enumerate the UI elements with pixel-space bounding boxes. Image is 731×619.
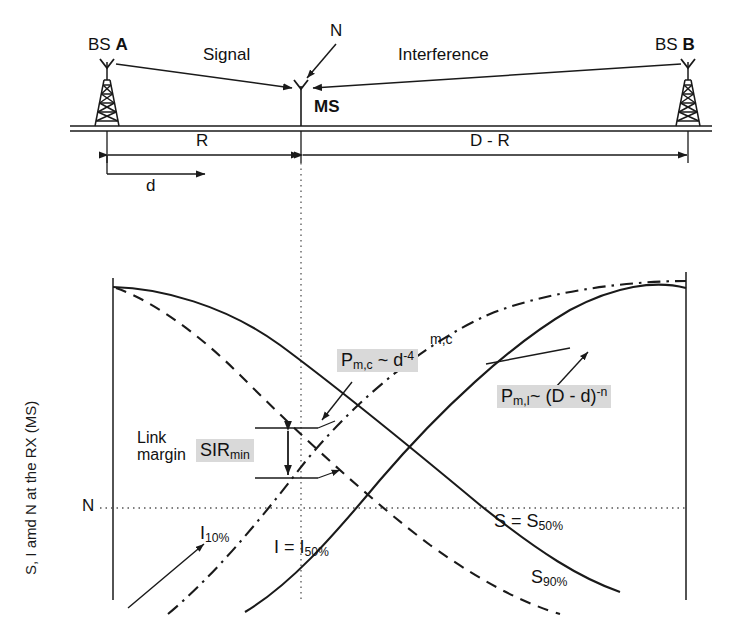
- sir-min-label: SIRmin: [196, 441, 254, 462]
- path-loss-interference-label: Pm,I~ (D - d)-n: [497, 386, 611, 408]
- curve-s-50: [113, 287, 620, 592]
- leader-i10: [128, 544, 204, 608]
- chart-y-axis-label: S, I amd N at the RX (MS): [22, 401, 39, 575]
- ground-line: [70, 126, 712, 131]
- bs-a-label: BS A: [88, 36, 128, 54]
- ms-label: MS: [314, 98, 340, 116]
- dimension-r-label: R: [196, 132, 208, 150]
- interference-label: Interference: [398, 46, 489, 64]
- sir-lower-tail: [318, 470, 340, 478]
- path-loss-signal-label: Pm,c ~ d-4: [337, 350, 418, 372]
- bs-b-tower-icon: [676, 59, 700, 126]
- curve-i-50: [245, 285, 686, 612]
- noise-arrow: [307, 44, 336, 78]
- i10-label: I10%: [200, 524, 230, 545]
- ms-antenna-icon: [294, 80, 308, 126]
- propagation-diagram: [0, 0, 731, 619]
- leader-pmi: [555, 352, 588, 388]
- bs-b-label: BS B: [655, 36, 695, 54]
- sir-min-bracket: [255, 428, 318, 478]
- link-margin-label: Link margin: [137, 430, 186, 464]
- leader-pmi-2: [486, 348, 570, 364]
- s90-label: S90%: [531, 568, 568, 589]
- s50-label: S = S50%: [494, 512, 563, 533]
- interference-path: [313, 64, 681, 88]
- noise-axis-label: N: [82, 497, 94, 515]
- bs-a-tower-icon: [95, 59, 119, 126]
- signal-path: [116, 64, 292, 88]
- dimension-d-arrow: [107, 155, 205, 174]
- dimension-d-minus-r-label: D - R: [470, 132, 510, 150]
- mc-label: m,c: [430, 332, 453, 347]
- sir-upper-tail: [318, 421, 335, 428]
- i50-label: I = I50%: [274, 538, 329, 559]
- signal-label: Signal: [203, 46, 250, 64]
- noise-label-top: N: [330, 22, 342, 40]
- dimension-d-label: d: [146, 177, 155, 195]
